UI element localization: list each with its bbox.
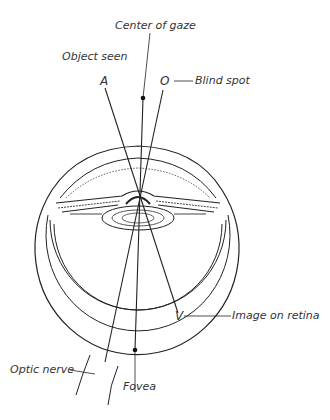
center-gaze-line (135, 98, 143, 350)
label-image-on-retina: Image on retina (232, 310, 320, 322)
choroid (46, 215, 230, 331)
label-center-of-gaze: Center of gaze (115, 20, 196, 32)
label-object-seen: Object seen (62, 51, 128, 63)
ray-a (105, 88, 178, 313)
letter-v: V (175, 310, 183, 322)
optic-nerve (76, 355, 118, 405)
label-fovea: Fovea (123, 381, 156, 393)
letter-a: A (100, 75, 108, 87)
gaze-dot (141, 96, 146, 101)
letter-o: O (160, 75, 169, 87)
ray-o (105, 90, 163, 362)
label-blind-spot: Blind spot (195, 75, 250, 87)
anterior-chamber (60, 158, 216, 198)
eye-diagram (0, 0, 330, 420)
label-optic-nerve: Optic nerve (10, 364, 74, 376)
fovea-dot (133, 348, 138, 353)
